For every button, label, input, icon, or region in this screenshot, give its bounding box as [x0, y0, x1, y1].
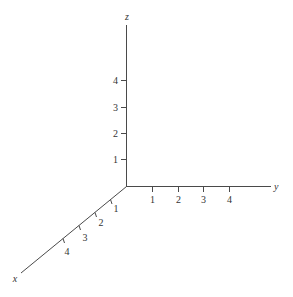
x-tick-4 — [63, 239, 65, 244]
x-tick-3 — [79, 226, 81, 231]
z-tick-label-2: 2 — [113, 128, 118, 139]
z-tick-label-1: 1 — [113, 154, 118, 165]
y-axis-label: y — [273, 181, 279, 192]
y-tick-label-2: 2 — [176, 194, 181, 205]
x-tick-label-2: 2 — [99, 217, 104, 228]
x-tick-2 — [95, 213, 97, 218]
z-tick-label-4: 4 — [113, 75, 118, 86]
x-tick-label-1: 1 — [114, 203, 119, 214]
y-tick-label-1: 1 — [150, 194, 155, 205]
y-tick-label-3: 3 — [201, 194, 206, 205]
x-axis-label: x — [12, 273, 18, 284]
z-tick-label-3: 3 — [113, 102, 118, 113]
x-tick-1 — [111, 200, 113, 205]
y-tick-label-4: 4 — [227, 194, 232, 205]
axes-svg: 4 3 2 1 z 1 2 3 4 y 1 2 3 4 x — [0, 0, 293, 297]
x-tick-label-4: 4 — [65, 246, 70, 257]
z-axis-label: z — [124, 11, 129, 22]
axes-diagram: 4 3 2 1 z 1 2 3 4 y 1 2 3 4 x — [0, 0, 293, 297]
x-tick-label-3: 3 — [83, 232, 88, 243]
